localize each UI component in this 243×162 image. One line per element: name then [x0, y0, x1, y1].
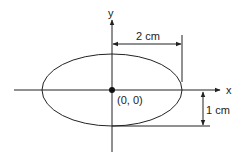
- y-axis-label: y: [108, 7, 114, 19]
- ellipse-diagram: x y (0, 0) 2 cm 1 cm: [0, 0, 243, 162]
- origin-point: [109, 87, 115, 93]
- vertical-dimension-label: 1 cm: [206, 104, 230, 116]
- horizontal-dimension-label: 2 cm: [136, 30, 160, 42]
- origin-label: (0, 0): [117, 94, 143, 106]
- x-axis-label: x: [226, 84, 232, 96]
